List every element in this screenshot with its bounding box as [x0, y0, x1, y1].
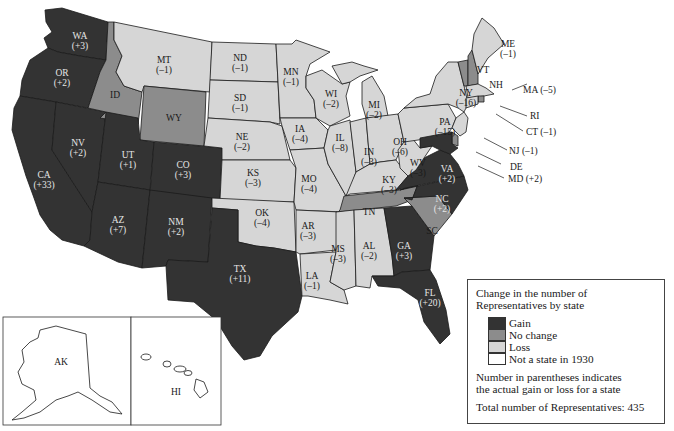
legend-total: Total number of Representatives: 435 [476, 401, 656, 413]
callout-ri: RI [530, 111, 540, 121]
legend: Change in the number of Representatives … [467, 279, 665, 424]
label-nv: NV(+2) [70, 138, 86, 159]
legend-label: No change [509, 329, 557, 341]
callout-de: DE [510, 162, 523, 172]
no-change-swatch [488, 329, 506, 341]
label-ky: KY(–3) [381, 175, 397, 196]
legend-note-line1: Number in parentheses indicates [476, 371, 656, 383]
leader-md [478, 166, 504, 178]
label-me: ME(–1) [500, 39, 516, 60]
label-mi: MI(–2) [366, 100, 382, 121]
label-va: VA(+2) [439, 164, 455, 185]
label-oh: OH(–6) [392, 137, 408, 158]
label-mo: MO(–4) [301, 174, 317, 195]
gain-swatch [488, 317, 506, 329]
label-nc: NC(+2) [434, 194, 450, 215]
label-ut: UT(+1) [120, 150, 136, 171]
label-or: OR(+2) [54, 68, 70, 89]
label-ne: NE(–2) [234, 132, 250, 153]
label-sd: SD(–1) [232, 93, 248, 114]
label-vt: VT [477, 65, 490, 75]
legend-title-line1: Change in the number of [476, 287, 656, 299]
label-id: ID [110, 90, 120, 100]
label-ar: AR(–3) [300, 221, 316, 242]
leader-ct [496, 114, 523, 131]
label-ok: OK(–4) [254, 208, 270, 229]
label-mn: MN(–1) [283, 67, 299, 88]
loss-swatch [488, 341, 506, 353]
legend-label: Loss [509, 341, 530, 353]
legend-item-loss: Loss [488, 341, 656, 353]
callout-ma: MA (–5) [523, 85, 556, 96]
state-ri [478, 96, 484, 102]
callout-md: MD (+2) [508, 174, 542, 185]
label-wi: WI(–2) [323, 89, 339, 110]
label-sc: SC [426, 226, 438, 236]
callout-ct: CT (–1) [526, 127, 556, 138]
label-la: LA(–1) [304, 271, 320, 292]
label-ms: MS(–3) [330, 244, 346, 265]
legend-title: Change in the number of Representatives … [476, 287, 656, 311]
label-wv: WV(–3) [410, 158, 426, 179]
label-wa: WA(+3) [72, 31, 88, 52]
legend-item-no-change: No change [488, 329, 656, 341]
label-nh: NH [489, 80, 503, 90]
not-a-state-swatch [488, 353, 506, 365]
label-ga: GA(+3) [396, 241, 412, 262]
label-hi: HI [171, 387, 181, 397]
legend-title-line2: Representatives by state [476, 299, 656, 311]
label-wy: WY [166, 113, 182, 123]
leader-de [476, 152, 501, 164]
label-az: AZ(+7) [110, 215, 126, 236]
label-ks: KS(–3) [245, 168, 261, 189]
label-al: AL(–2) [361, 241, 377, 262]
legend-item-gain: Gain [488, 317, 656, 329]
leader-nj [484, 138, 507, 150]
legend-note: Number in parentheses indicates the actu… [476, 371, 656, 395]
callout-nj: NJ (–1) [509, 146, 538, 157]
label-ak: AK [54, 357, 68, 367]
label-co: CO(+3) [175, 160, 191, 181]
legend-label: Gain [509, 317, 531, 329]
leader-ri [500, 106, 527, 116]
label-nd: ND(–1) [232, 53, 248, 74]
label-mt: MT(–1) [156, 55, 172, 76]
legend-item-not-a-state: Not a state in 1930 [488, 353, 656, 365]
legend-label: Not a state in 1930 [509, 353, 594, 365]
label-tn: TN [363, 207, 376, 217]
legend-note-line2: the actual gain or loss for a state [476, 383, 656, 395]
label-nm: NM(+2) [168, 217, 184, 238]
